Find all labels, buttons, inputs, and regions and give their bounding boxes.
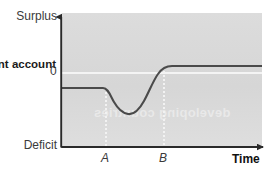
y-axis-tick-zero: 0 [50,64,57,78]
axis-label-deficit: Deficit [24,138,57,152]
y-axis-title: Current account [0,58,56,71]
chart-figure: developing countries Surplus Deficit Cur… [0,0,279,179]
axis-label-surplus: Surplus [16,9,57,23]
plot-area: developing countries [62,13,262,147]
x-axis-title: Time [232,152,260,166]
x-axis-tick-a: A [101,151,109,165]
x-axis-tick-b: B [159,151,167,165]
current-account-curve [62,13,262,147]
